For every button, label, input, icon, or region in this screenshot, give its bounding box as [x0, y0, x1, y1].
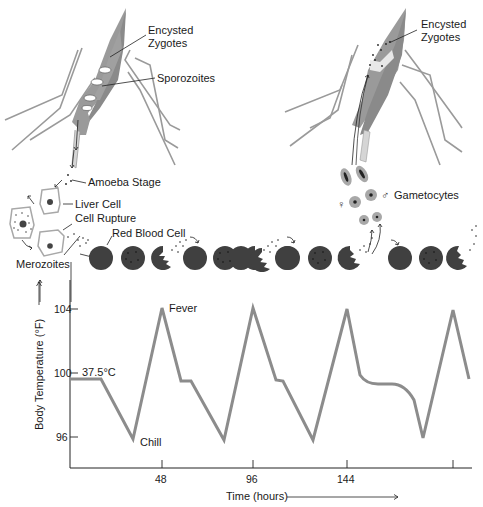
y-tick-96: 96: [56, 431, 68, 443]
red-blood-cells-row: [89, 246, 299, 270]
male-symbol: ♂: [381, 189, 389, 201]
label-encysted-zygotes-right-2: Zygotes: [421, 31, 461, 43]
cycle-arrows: [190, 237, 399, 245]
x-tick-96: 96: [246, 473, 258, 485]
red-blood-cells-row-2: [250, 246, 467, 272]
female-symbol: ♀: [337, 198, 345, 210]
temperature-chart: [70, 280, 472, 468]
label-encysted-zygotes-left-2: Zygotes: [148, 37, 188, 49]
temperature-curve: [70, 308, 469, 440]
x-axis-arrow: [287, 495, 398, 500]
label-amoeba-stage: Amoeba Stage: [88, 176, 161, 188]
label-sporozoites: Sporozoites: [157, 72, 216, 84]
label-gametocytes: Gametocytes: [394, 189, 459, 201]
label-encysted-zygotes-left-1: Encysted: [148, 24, 193, 36]
x-axis-label: Time (hours): [226, 490, 288, 502]
liver-stage-group: [10, 174, 92, 302]
annotation-chill: Chill: [140, 436, 161, 448]
malaria-lifecycle-figure: Encysted Zygotes Sporozoites Encysted Zy…: [0, 0, 483, 507]
annotation-fever: Fever: [169, 302, 197, 314]
x-tick-144: 144: [337, 473, 355, 485]
x-tick-48: 48: [155, 473, 167, 485]
y-axis-label: Body Temperature (°F): [33, 319, 45, 430]
y-axis-arrow: [37, 282, 42, 305]
label-merozoites: Merozoites: [16, 258, 70, 270]
label-encysted-zygotes-right-1: Encysted: [421, 18, 466, 30]
label-liver-cell: Liver Cell: [75, 198, 121, 210]
label-red-blood-cell: Red Blood Cell: [112, 227, 185, 239]
y-tick-100: 100: [54, 367, 72, 379]
annotation-37-5c: 37.5°C: [82, 366, 116, 378]
y-tick-104: 104: [54, 303, 72, 315]
label-cell-rupture: Cell Rupture: [75, 212, 136, 224]
